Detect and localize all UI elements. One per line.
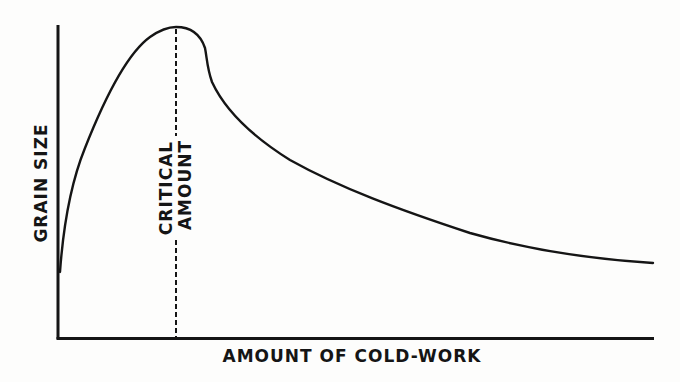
amount-label: AMOUNT xyxy=(175,140,195,230)
critical-label: CRITICAL xyxy=(156,141,176,235)
grain-size-diagram: GRAIN SIZE CRITICAL AMOUNT AMOUNT OF COL… xyxy=(0,0,680,382)
grain-size-curve xyxy=(60,27,653,272)
x-axis-label: AMOUNT OF COLD-WORK xyxy=(222,346,481,366)
y-axis-label: GRAIN SIZE xyxy=(31,123,51,242)
